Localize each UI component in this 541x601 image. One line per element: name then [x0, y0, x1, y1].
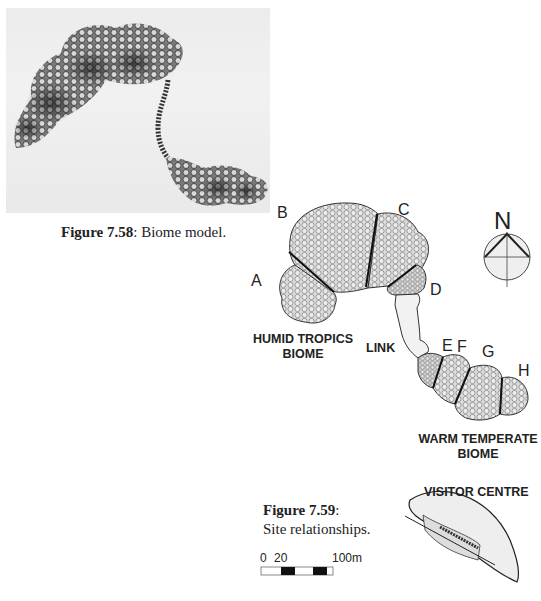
label-dome-g: G	[482, 343, 494, 361]
label-dome-f: F	[457, 338, 467, 356]
dome-h	[500, 377, 528, 415]
warm-temperate-biome-label: WARM TEMPERATE BIOME	[415, 432, 541, 462]
link-label: LINK	[366, 341, 395, 356]
visitor-centre-label: VISITOR CENTRE	[424, 485, 529, 500]
link-building	[395, 294, 429, 358]
scale-start-label: 0	[260, 551, 267, 565]
scale-end-label: 100m	[332, 551, 362, 565]
visitor-centre-plan	[405, 491, 518, 582]
figure-7-59-number: Figure 7.59	[263, 502, 335, 518]
label-dome-c: C	[398, 201, 410, 219]
label-dome-a: A	[251, 272, 262, 290]
label-dome-h: H	[518, 362, 530, 380]
scale-bar	[261, 567, 333, 575]
figure-7-59-text: Site relationships.	[263, 520, 371, 539]
label-dome-b: B	[277, 204, 288, 222]
scale-mid-label: 20	[274, 551, 287, 565]
humid-tropics-biome-label: HUMID TROPICS BIOME	[248, 332, 358, 362]
label-dome-e: E	[442, 337, 453, 355]
label-dome-d: D	[430, 281, 442, 299]
north-label: N	[494, 207, 511, 235]
figure-7-59-caption: Figure 7.59: Site relationships.	[263, 501, 371, 539]
north-arrow-icon	[484, 232, 530, 287]
